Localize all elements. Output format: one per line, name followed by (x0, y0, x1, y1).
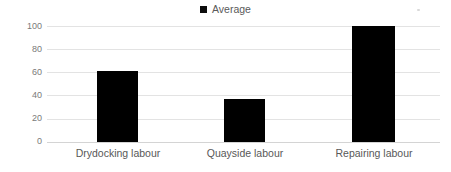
chart-legend: Average (0, 2, 451, 16)
y-tick-label-80: 80 (14, 45, 42, 54)
y-tick-label-60: 60 (14, 68, 42, 77)
x-label-drydocking-labour: Drydocking labour (63, 146, 173, 160)
bar-chart: Average Labour (man-day) (%) 100 80 60 4… (0, 0, 451, 172)
plot-area (47, 26, 440, 142)
y-tick-label-20: 20 (14, 114, 42, 123)
x-axis-categories: Drydocking labour Quayside labour Repair… (47, 146, 440, 162)
bar-quayside-labour (224, 99, 265, 142)
bar-drydocking-labour (97, 71, 138, 142)
scan-artifact (417, 9, 420, 11)
legend-label-average: Average (212, 3, 251, 15)
x-label-quayside-labour: Quayside labour (190, 146, 300, 160)
bar-repairing-labour (352, 26, 395, 142)
bars-layer (47, 26, 440, 142)
y-tick-label-100: 100 (14, 22, 42, 31)
gridline-0-baseline (47, 142, 440, 143)
legend-marker-average-icon (200, 6, 207, 13)
y-tick-label-0: 0 (14, 137, 42, 146)
y-tick-label-40: 40 (14, 91, 42, 100)
x-label-repairing-labour: Repairing labour (319, 146, 429, 160)
